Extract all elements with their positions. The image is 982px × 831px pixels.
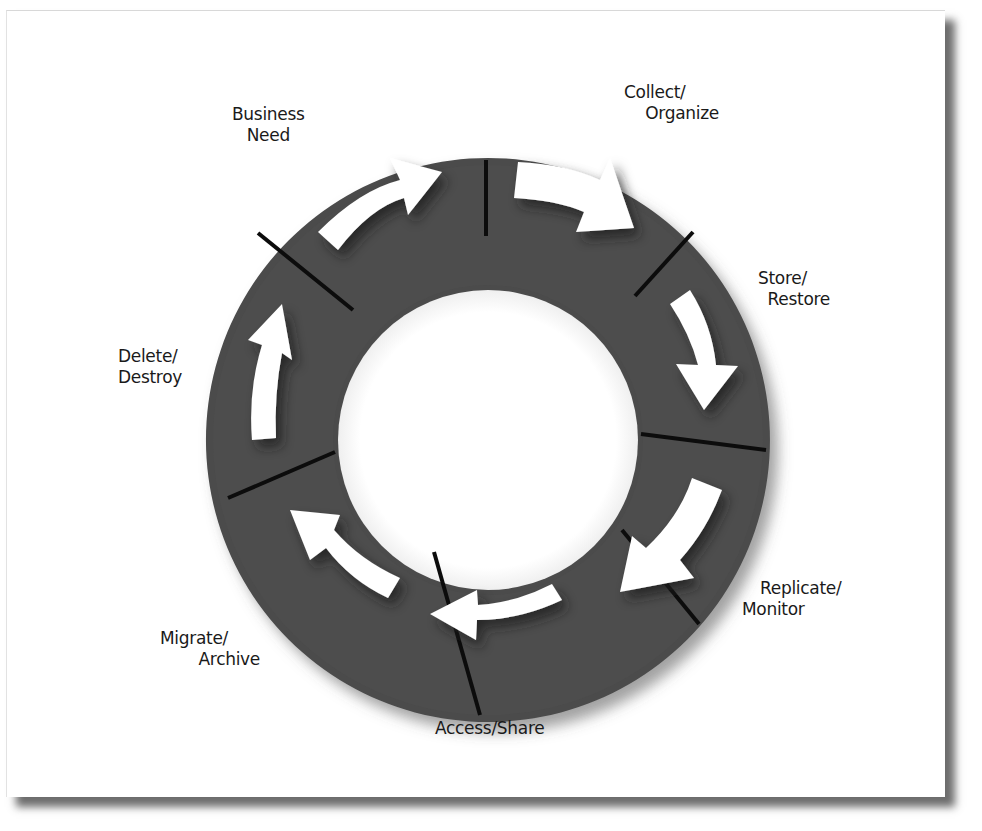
- stage-label-delete-destroy: Delete/ Destroy: [118, 346, 182, 388]
- stage-label-collect-organize: Collect/ Organize: [606, 82, 719, 124]
- stage-label-migrate-archive: Migrate/ Archive: [160, 628, 260, 670]
- ring-center: [338, 290, 638, 590]
- ring-graphic: [0, 0, 982, 831]
- stage-label-business-need: Business Need: [232, 104, 305, 146]
- cycle-diagram: Business Need Collect/ Organize Store/ R…: [0, 0, 982, 831]
- stage-label-store-restore: Store/ Restore: [758, 268, 830, 310]
- stage-label-replicate-monitor: Replicate/ Monitor: [742, 578, 841, 620]
- stage-label-access-share: Access/Share: [435, 718, 544, 739]
